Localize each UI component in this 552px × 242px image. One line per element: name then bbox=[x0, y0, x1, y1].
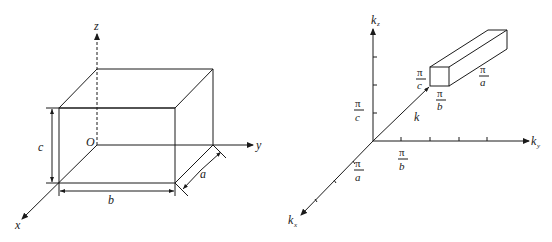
x-axis-label: x bbox=[14, 218, 21, 232]
z-axis-label: z bbox=[93, 19, 99, 33]
svg-text:π: π bbox=[399, 146, 405, 158]
dimension-c: c bbox=[38, 108, 59, 183]
svg-text:π: π bbox=[355, 97, 361, 109]
svg-text:c: c bbox=[417, 79, 422, 91]
ky-axis-label: k y bbox=[531, 134, 541, 150]
dimension-c-label: c bbox=[38, 140, 44, 154]
real-space-box-diagram: z y x O c bbox=[14, 19, 262, 232]
cell-height-label: π c bbox=[416, 66, 426, 91]
dimension-b: b bbox=[59, 183, 175, 207]
svg-text:π: π bbox=[480, 63, 486, 75]
svg-text:a: a bbox=[355, 171, 361, 183]
k-vector bbox=[373, 87, 429, 141]
origin-label: O bbox=[86, 135, 95, 149]
svg-text:c: c bbox=[355, 111, 360, 123]
kz-spacing-label: π c bbox=[354, 97, 364, 123]
svg-text:a: a bbox=[480, 76, 486, 88]
svg-text:π: π bbox=[355, 157, 361, 169]
dimension-a: a bbox=[175, 145, 226, 196]
cell-width-label: π b bbox=[436, 87, 446, 112]
ky-spacing-label: π b bbox=[398, 146, 408, 172]
figure: z y x O c bbox=[0, 0, 552, 242]
k-space-unit-cell bbox=[430, 30, 507, 86]
box bbox=[59, 69, 213, 183]
kx-axis-label: k x bbox=[288, 213, 298, 229]
kx-spacing-label: π a bbox=[354, 157, 364, 183]
svg-text:y: y bbox=[536, 142, 541, 150]
cell-depth-label: π a bbox=[479, 63, 489, 88]
dimension-a-label: a bbox=[200, 167, 206, 181]
k-vector-label: k bbox=[414, 110, 420, 124]
svg-text:b: b bbox=[399, 160, 405, 172]
svg-text:π: π bbox=[437, 87, 443, 99]
svg-text:π: π bbox=[417, 66, 423, 78]
dimension-b-label: b bbox=[108, 193, 114, 207]
svg-text:z: z bbox=[376, 20, 380, 28]
k-space-diagram: k z k y k x k bbox=[288, 13, 541, 229]
svg-text:x: x bbox=[293, 221, 298, 229]
kz-axis-label: k z bbox=[371, 13, 380, 28]
svg-text:b: b bbox=[437, 100, 443, 112]
y-axis-label: y bbox=[255, 138, 262, 152]
kx-axis bbox=[301, 141, 373, 215]
